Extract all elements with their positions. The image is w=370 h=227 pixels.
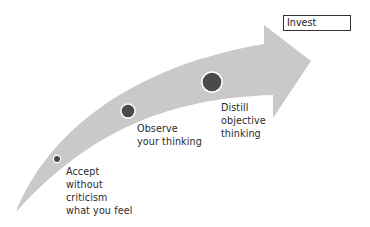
- step-label-accept: Accept without criticism what you feel: [66, 165, 132, 217]
- step-dot-1: [53, 155, 61, 163]
- invest-label: Invest: [287, 17, 316, 28]
- step-label-observe: Observe your thinking: [137, 122, 202, 148]
- curved-arrow: [16, 25, 311, 212]
- step-label-distill: Distill objective thinking: [221, 101, 266, 140]
- invest-box: Invest: [283, 15, 351, 31]
- growth-arrow-diagram: [0, 0, 370, 227]
- step-dot-2: [120, 103, 136, 119]
- step-dot-3: [201, 71, 223, 93]
